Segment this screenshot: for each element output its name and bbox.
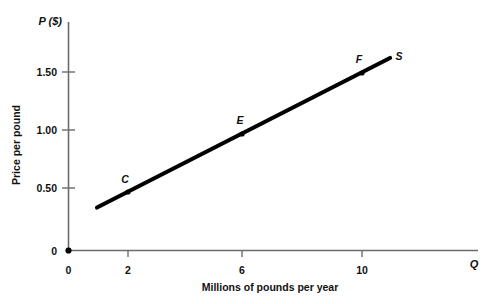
x-tick-label-6: 6 bbox=[239, 264, 245, 276]
x-axis-variable-label: Q bbox=[470, 258, 479, 270]
data-point-c bbox=[125, 189, 130, 194]
curve-label-s: S bbox=[395, 50, 402, 62]
y-tick-label-0: 0 bbox=[51, 245, 57, 257]
supply-curve-figure: 1.50 1.00 0.50 0 0 2 6 10 P ($) Q C E F … bbox=[0, 0, 493, 304]
y-axis-variable-label: P ($) bbox=[39, 15, 63, 27]
origin-dot bbox=[65, 247, 71, 253]
x-tick-label-2: 2 bbox=[125, 264, 131, 276]
point-label-e: E bbox=[236, 114, 244, 126]
x-tick-label-0: 0 bbox=[66, 264, 72, 276]
y-axis-title: Price per pound bbox=[10, 105, 22, 185]
point-label-f: F bbox=[356, 53, 363, 65]
y-tick-label-100: 1.00 bbox=[37, 124, 58, 136]
x-tick-label-10: 10 bbox=[356, 264, 368, 276]
chart-canvas: 1.50 1.00 0.50 0 0 2 6 10 P ($) Q C E F … bbox=[0, 0, 493, 304]
data-point-e bbox=[239, 131, 244, 136]
data-point-f bbox=[359, 70, 364, 75]
point-label-c: C bbox=[121, 173, 129, 185]
x-axis-title: Millions of pounds per year bbox=[202, 281, 339, 293]
y-tick-label-150: 1.50 bbox=[37, 66, 58, 78]
y-tick-label-050: 0.50 bbox=[37, 182, 58, 194]
